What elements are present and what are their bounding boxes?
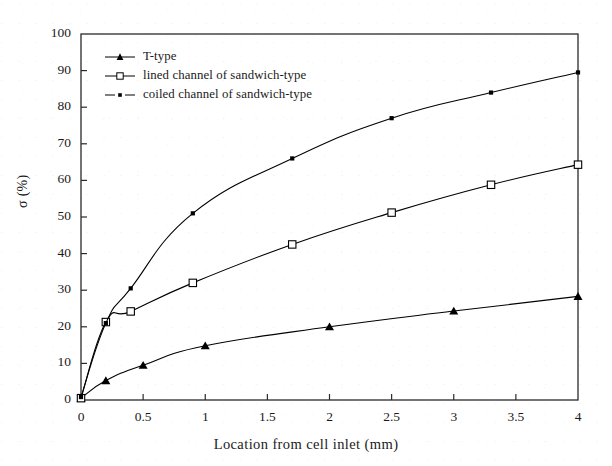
x-axis-title: Location from cell inlet (mm) [0,436,612,453]
data-point-marker [101,376,110,384]
data-point-marker [191,211,195,215]
y-tick-label: 50 [37,208,71,224]
y-tick-label: 10 [37,354,71,370]
data-point-marker [290,156,294,160]
data-point-marker [388,209,395,216]
data-point-marker [104,321,108,325]
x-tick-label: 1 [185,409,225,425]
series-line-1 [81,165,578,399]
x-tick-label: 0.5 [123,409,163,425]
legend-item-coiled-channel: coiled channel of sandwich-type [104,85,364,104]
data-point-marker [189,279,196,286]
y-tick-label: 20 [37,318,71,334]
legend-label-t-type: T-type [143,49,177,64]
legend-marker-small-filled-square-icon [104,89,136,101]
data-point-marker [576,70,580,74]
x-tick-label: 2.5 [372,409,412,425]
y-tick-label: 80 [37,98,71,114]
data-point-marker [573,292,582,300]
data-point-marker [289,241,296,248]
legend-label-lined-channel: lined channel of sandwich-type [143,68,306,83]
legend: T-type lined channel of sandwich-type co… [104,47,364,104]
y-axis-title: σ (%) [15,178,31,208]
series-line-2 [81,72,578,397]
data-point-marker [390,116,394,120]
chart-figure: σ (%) Location from cell inlet (mm) 0102… [0,0,612,466]
y-tick-label: 40 [37,245,71,261]
data-point-marker [487,181,494,188]
x-tick-label: 3 [434,409,474,425]
y-tick-label: 100 [37,25,71,41]
y-tick-label: 70 [37,135,71,151]
x-tick-label: 4 [558,409,598,425]
data-point-marker [129,286,133,290]
y-tick-label: 0 [37,391,71,407]
y-tick-label: 90 [37,62,71,78]
legend-marker-open-square-icon [104,70,136,82]
y-tick-label: 60 [37,171,71,187]
data-point-marker [574,161,581,168]
data-point-marker [79,395,83,399]
y-tick-label: 30 [37,281,71,297]
legend-marker-filled-triangle-icon [104,51,136,63]
data-point-marker [139,361,148,369]
x-tick-label: 2 [310,409,350,425]
x-tick-label: 3.5 [496,409,536,425]
legend-item-t-type: T-type [104,47,364,66]
x-tick-label: 1.5 [247,409,287,425]
legend-item-lined-channel: lined channel of sandwich-type [104,66,364,85]
data-point-marker [489,90,493,94]
data-point-marker [127,308,134,315]
x-tick-label: 0 [61,409,101,425]
series-line-0 [81,296,578,398]
legend-label-coiled-channel: coiled channel of sandwich-type [143,87,312,102]
